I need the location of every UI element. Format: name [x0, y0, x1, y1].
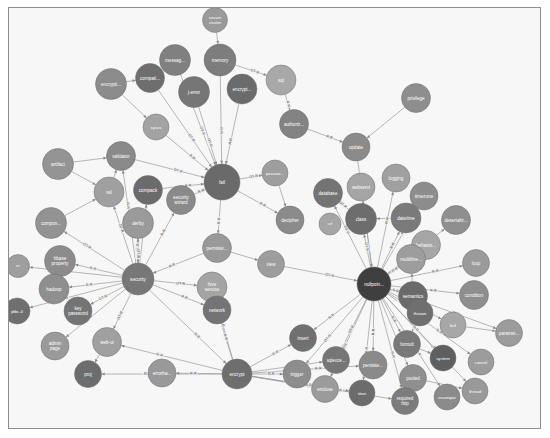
graph-node[interactable]: decipher — [276, 206, 304, 234]
graph-node[interactable]: sqlexce... — [323, 347, 350, 374]
graph-edge[interactable] — [308, 129, 343, 142]
graph-edge[interactable] — [153, 285, 204, 305]
graph-edge[interactable] — [153, 253, 204, 273]
graph-node[interactable]: csf — [319, 213, 341, 235]
graph-node[interactable]: messag... — [160, 45, 191, 76]
graph-node[interactable]: securecluster — [203, 8, 228, 33]
graph-node[interactable]: fail — [204, 164, 240, 200]
graph-node[interactable]: webservi — [347, 173, 375, 201]
graph-node[interactable]: titan — [349, 380, 375, 406]
graph-edge[interactable] — [279, 185, 286, 206]
graph-node[interactable]: proj — [75, 361, 102, 388]
graph-node[interactable]: jdbc-4 — [9, 298, 30, 324]
graph-node[interactable]: deserializ... — [442, 206, 471, 235]
node-label: view — [267, 262, 277, 267]
graph-edge[interactable] — [65, 199, 96, 216]
graph-node[interactable]: er — [9, 255, 30, 278]
graph-edge[interactable] — [220, 76, 221, 164]
graph-node[interactable]: adminpage — [41, 332, 69, 360]
nodes-layer: secureclustermessag...memoryencrypti...c… — [9, 8, 523, 415]
graph-node[interactable]: system — [430, 345, 456, 371]
graph-node[interactable]: encrypti... — [96, 69, 127, 100]
graph-node[interactable]: class — [346, 204, 377, 235]
graph-node[interactable]: errorha... — [148, 359, 176, 387]
edge-label-group: R-R — [196, 187, 206, 195]
graph-edge[interactable] — [199, 107, 217, 165]
graph-node[interactable]: hadoop — [39, 274, 69, 304]
graph-node[interactable]: datetime — [391, 203, 421, 233]
graph-node[interactable]: database — [314, 179, 343, 208]
graph-node[interactable]: incompat — [434, 384, 460, 410]
graph-node[interactable]: update — [342, 133, 370, 161]
edge-arrowhead — [263, 73, 267, 76]
graph-node[interactable]: cancel — [468, 349, 494, 375]
graph-node[interactable]: view — [258, 251, 285, 278]
graph-edge[interactable] — [69, 281, 122, 287]
graph-node[interactable]: memory — [204, 44, 236, 76]
graph-node[interactable]: thread — [462, 378, 488, 404]
graph-node[interactable]: encrypt — [222, 359, 252, 389]
graph-edge[interactable] — [231, 252, 258, 260]
graph-node[interactable]: logging — [382, 164, 410, 192]
graph-node[interactable]: permissi... — [203, 234, 232, 263]
graph-node[interactable]: security — [122, 263, 154, 295]
graph-node[interactable]: compack — [134, 176, 163, 205]
node-label: insert — [298, 336, 310, 341]
edge-label-group: R-R — [389, 350, 396, 359]
graph-edge[interactable] — [221, 323, 232, 359]
graph-node[interactable]: insert — [290, 325, 317, 352]
graph-edge[interactable] — [382, 299, 400, 332]
graph-node[interactable]: privilege — [402, 84, 431, 113]
graph-edge[interactable] — [72, 171, 96, 184]
graph-node[interactable]: network — [203, 296, 231, 324]
graph-edge[interactable] — [466, 327, 496, 331]
graph-node[interactable]: compati... — [136, 64, 165, 93]
graph-edge[interactable] — [75, 264, 122, 275]
graph-edge[interactable] — [226, 104, 239, 165]
graph-node[interactable]: artifact — [43, 149, 74, 180]
graph-node[interactable]: trigger — [283, 360, 311, 388]
graph-edge[interactable] — [342, 299, 366, 348]
graph-node[interactable]: enclose — [312, 376, 339, 403]
edge-label-group: R-R — [389, 315, 398, 325]
graph-edge[interactable] — [377, 192, 393, 268]
graph-edge[interactable] — [373, 301, 374, 351]
graph-node[interactable]: derby — [123, 208, 154, 239]
graph-canvas[interactable]: OT-RR-ROT-ROT-RR-ROT-RR-RR-RR-ROT-ROT-RR… — [9, 8, 540, 428]
graph-edge[interactable] — [238, 191, 278, 213]
graph-node[interactable]: persiste... — [359, 351, 387, 379]
graph-edge[interactable] — [73, 158, 106, 162]
graph-node[interactable]: ssl — [94, 177, 124, 207]
node-label: compon... — [41, 221, 61, 226]
graph-edge[interactable] — [250, 344, 291, 366]
graph-node[interactable]: web-ui — [93, 328, 122, 357]
graph-node[interactable]: loop — [463, 250, 490, 277]
graph-node[interactable]: nullpoin... — [357, 267, 391, 301]
graph-node[interactable]: thrown — [407, 300, 433, 326]
graph-node[interactable]: validator — [107, 142, 136, 171]
graph-edge[interactable] — [381, 231, 399, 268]
graph-node[interactable]: authoriz... — [280, 110, 309, 139]
graph-node[interactable]: securitywizard — [167, 186, 196, 215]
graph-edge[interactable] — [284, 267, 357, 281]
graph-node[interactable]: buf — [440, 312, 466, 338]
edge-arrowhead — [121, 345, 124, 348]
graph-edge[interactable] — [135, 160, 205, 178]
node-label: validator — [112, 154, 130, 159]
graph-node[interactable]: condition — [460, 281, 489, 310]
graph-node[interactable]: hbaseproperty — [45, 246, 76, 277]
graph-node[interactable]: passwo... — [262, 160, 288, 186]
graph-node[interactable]: compon... — [36, 208, 67, 239]
graph-node[interactable]: sql — [266, 65, 296, 95]
graph-node[interactable]: formult — [394, 331, 421, 358]
edge-label-group: OT-R — [81, 241, 93, 251]
graph-node[interactable]: keypassword — [64, 297, 92, 325]
graph-node[interactable]: j-error — [179, 77, 210, 108]
graph-node[interactable]: encrypt... — [227, 74, 257, 104]
graph-node[interactable]: requiredhttp — [392, 388, 419, 415]
graph-node[interactable]: multithre... — [397, 245, 426, 274]
graph-node[interactable]: sysca — [143, 114, 169, 140]
graph-node[interactable]: paramet... — [496, 320, 523, 347]
graph-edge[interactable] — [367, 107, 405, 138]
graph-edge[interactable] — [122, 95, 146, 118]
